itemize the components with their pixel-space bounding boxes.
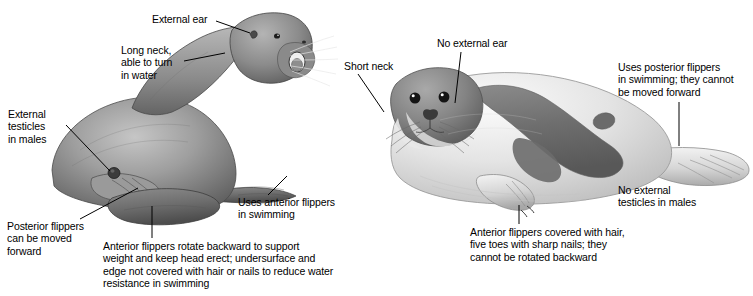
leader-no-external-ear <box>455 52 461 103</box>
leader-posterior-flippers <box>80 188 138 219</box>
label-external-ear: External ear <box>152 13 207 25</box>
label-short-neck: Short neck <box>344 60 393 72</box>
anatomy-comparison-figure: External ear Long neck, able to turn in … <box>0 0 753 296</box>
label-no-external-testicles: No external testicles in males <box>618 184 696 209</box>
label-uses-posterior-flippers: Uses posterior flippers in swimming; the… <box>618 61 733 98</box>
label-posterior-flippers: Posterior flippers can be moved forward <box>7 220 84 257</box>
label-uses-anterior-flippers: Uses anterior flippers in swimming <box>238 196 335 221</box>
leader-long-neck <box>184 53 225 61</box>
label-no-external-ear: No external ear <box>437 37 507 49</box>
label-external-testicles: External testicles in males <box>8 108 46 145</box>
leader-external-testicles <box>66 125 110 171</box>
leader-external-ear <box>216 21 250 33</box>
leader-uses-anterior-flippers <box>268 176 287 195</box>
label-long-neck: Long neck, able to turn in water <box>121 44 172 81</box>
label-anterior-flippers-rotate: Anterior flippers rotate backward to sup… <box>103 240 333 289</box>
label-anterior-flippers-hair: Anterior flippers covered with hair, fiv… <box>470 226 625 263</box>
leader-short-neck <box>358 74 384 112</box>
